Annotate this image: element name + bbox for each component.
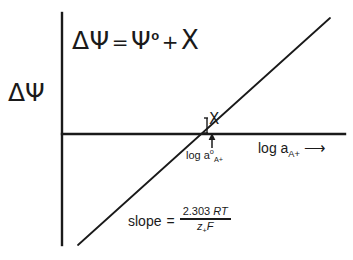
x-axis-title-prefix: log a xyxy=(258,140,288,156)
slope-numerator-coefficient: 2.303 xyxy=(183,205,211,217)
slope-denominator: z+F xyxy=(194,220,216,234)
governing-equation: ΔΨ=Ψo+Χ xyxy=(72,27,199,53)
equation-psi-standard-superscript: o xyxy=(151,28,159,43)
equation-delta-psi: ΔΨ xyxy=(72,26,110,55)
x-axis-title-subscript: A+ xyxy=(288,149,300,159)
slope-expression: slope = 2.303 RT z+F xyxy=(128,207,231,235)
right-arrow-icon: ⟶ xyxy=(300,139,326,156)
slope-numerator: 2.303 RT xyxy=(180,206,231,218)
x-axis-title: log aA+⟶ xyxy=(258,140,326,159)
slope-equals: = xyxy=(161,214,179,228)
intercept-label-subscript: A+ xyxy=(214,155,223,164)
equation-equals: = xyxy=(110,30,131,54)
equation-chi: Χ xyxy=(181,25,199,55)
intercept-label-prefix: log a xyxy=(186,149,210,161)
slope-fraction: 2.303 RT z+F xyxy=(180,206,231,234)
x-intercept-label: log aoA+ xyxy=(186,148,223,163)
slope-label: slope xyxy=(128,214,161,228)
figure-canvas: ΔΨ=Ψo+Χ ΔΨ Χ log aoA+ log aA+⟶ slope = 2… xyxy=(0,0,353,260)
slope-numerator-symbols: RT xyxy=(213,205,227,217)
equation-psi: Ψ xyxy=(131,26,151,55)
chi-offset-label: Χ xyxy=(209,112,219,127)
y-axis-title: ΔΨ xyxy=(8,80,45,105)
slope-denominator-faraday: F xyxy=(207,220,214,232)
equation-plus: + xyxy=(160,30,181,54)
